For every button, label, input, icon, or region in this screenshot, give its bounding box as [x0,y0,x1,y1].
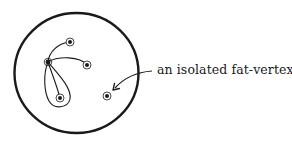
vertex-bottom [56,94,64,102]
vertex-right [83,61,91,69]
annotation-arrow [115,71,152,88]
edge-hub-right [48,58,87,65]
vertex-isolated [103,92,111,100]
edge-hub-bottom [48,62,60,98]
boundary-circle [15,13,139,133]
isolated-vertex-label: an isolated fat-vertex [157,62,292,77]
edge-hub-top [48,42,70,62]
vertex-top [66,38,74,46]
